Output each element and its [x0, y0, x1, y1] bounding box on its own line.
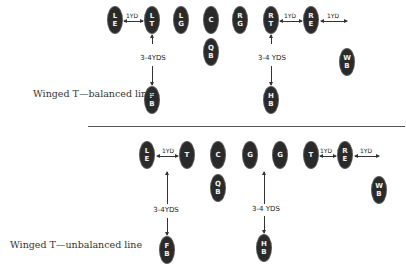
player-right-end: RE — [304, 7, 318, 33]
spacing-arrow-le-lt — [124, 21, 143, 22]
section-divider — [88, 126, 405, 127]
depth-arrow-down-hb — [271, 66, 272, 85]
player-guard-1: G — [243, 142, 257, 168]
spacing-label-re-out: 1YD — [327, 12, 339, 19]
player-left-guard: LG — [174, 7, 188, 33]
spacing-arrow-t-re — [320, 156, 336, 157]
player-center: C — [204, 7, 218, 33]
depth-arrow-down-hb — [264, 216, 265, 233]
depth-label-fb: 3-4YDS — [140, 54, 166, 62]
player-wingback: WB — [372, 177, 386, 203]
depth-arrow-up-hb — [271, 35, 272, 44]
depth-label-hb: 3-4 YDS — [258, 54, 286, 62]
spacing-label-rt-re: 1YD — [284, 12, 296, 19]
player-guard-2: G — [273, 142, 287, 168]
spacing-label-t-re: 1YD — [320, 147, 332, 154]
player-right-tackle: RT — [264, 7, 278, 33]
player-right-end: RE — [338, 142, 352, 168]
player-halfback: HB — [257, 235, 271, 261]
player-left-end: LE — [140, 142, 154, 168]
spacing-arrow-le-t — [157, 156, 178, 157]
depth-arrow-up-hb — [264, 172, 265, 204]
player-left-end: LE — [108, 7, 122, 33]
spacing-arrow-rt-re — [280, 21, 302, 22]
spacing-label-le-lt: 1YD — [126, 12, 138, 19]
player-right-tackle: T — [304, 142, 318, 168]
depth-label-hb: 3-4 YDS — [252, 205, 280, 213]
depth-label-fb: 3-4YDS — [153, 206, 179, 214]
depth-arrow-down-fb — [167, 218, 168, 235]
depth-arrow-down-fb — [152, 66, 153, 85]
spacing-label-re-out: 1YD — [360, 147, 372, 154]
depth-arrow-up-fb — [152, 35, 153, 44]
player-halfback: HB — [264, 87, 278, 113]
player-quarterback: QB — [211, 175, 225, 201]
formation-caption-balanced: Winged T—balanced line — [33, 88, 153, 99]
spacing-arrow-re-out — [355, 156, 379, 157]
player-right-guard: RG — [233, 7, 247, 33]
player-wingback: WB — [340, 49, 354, 75]
player-quarterback: QB — [204, 39, 218, 65]
player-center: C — [211, 142, 225, 168]
spacing-label-le-t: 1YD — [162, 147, 174, 154]
depth-arrow-up-fb — [167, 172, 168, 204]
player-left-tackle: T — [180, 142, 194, 168]
spacing-arrow-re-out — [321, 21, 347, 22]
player-fullback: FB — [160, 237, 174, 263]
player-left-tackle: LT — [145, 7, 159, 33]
formation-caption-unbalanced: Winged T—unbalanced line — [10, 239, 142, 250]
